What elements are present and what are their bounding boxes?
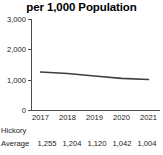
y-tick-mark-0 (28, 110, 31, 111)
y-axis-line (31, 19, 32, 111)
x-tick-label-2021: 2021 (140, 113, 157, 122)
y-tick-label-1000: 1,000 (0, 76, 26, 85)
y-tick-label-2000: 2,000 (0, 45, 26, 54)
data-cell-2018: 1,204 (62, 139, 81, 148)
y-tick-label-0: 0 (0, 106, 26, 115)
data-cell-2019: 1,120 (87, 139, 106, 148)
y-tick-mark-1000 (28, 80, 31, 81)
data-cell-2017: 1,255 (37, 139, 56, 148)
data-cell-2021: 1,004 (137, 139, 156, 148)
x-tick-label-2018: 2018 (59, 113, 76, 122)
x-axis-line (31, 110, 160, 111)
y-tick-mark-3000 (28, 19, 31, 20)
data-row-label-line1: Hickory (1, 126, 26, 135)
x-tick-label-2020: 2020 (113, 113, 130, 122)
x-tick-label-2017: 2017 (32, 113, 49, 122)
y-tick-label-3000: 3,000 (0, 15, 26, 24)
y-tick-mark-2000 (28, 49, 31, 50)
data-table: Hickory Average 1,255 1,204 1,120 1,042 … (0, 126, 163, 155)
data-row-label-line2: Average (1, 139, 29, 148)
data-cell-2020: 1,042 (112, 139, 131, 148)
chart-title: per 1,000 Population (0, 1, 163, 13)
chart-figure: per 1,000 Population 3,000 2,000 1,000 0… (0, 0, 163, 155)
x-tick-label-2019: 2019 (86, 113, 103, 122)
